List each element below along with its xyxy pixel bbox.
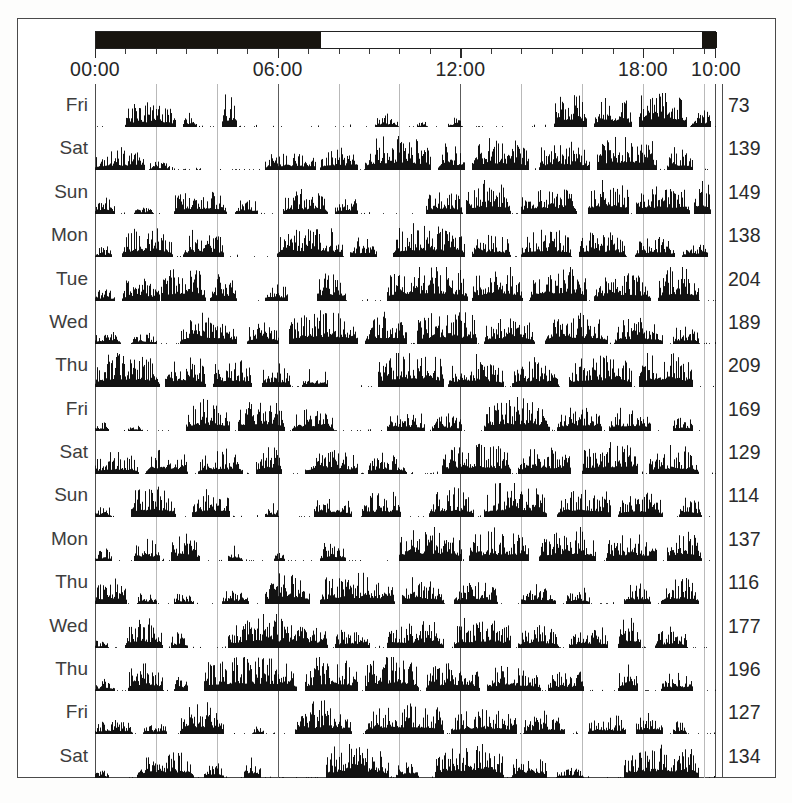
activity-trace: [95, 136, 716, 170]
time-tick-17: [613, 49, 614, 54]
activity-row: [95, 214, 716, 257]
activity-row: [95, 431, 716, 474]
activity-row: [95, 301, 716, 344]
time-tick-18: [643, 49, 644, 58]
time-tick-11: [430, 49, 431, 54]
activity-trace: [95, 93, 716, 127]
activity-row: [95, 127, 716, 170]
count-label-13: 196: [728, 658, 780, 681]
activity-trace: [95, 223, 716, 257]
day-label-14: Fri: [22, 701, 88, 723]
activity-row: [95, 388, 716, 431]
activity-row: [95, 344, 716, 387]
count-label-11: 116: [728, 571, 780, 594]
activity-trace: [95, 744, 716, 778]
actogram-figure: 00:0006:0012:0018:0010:00 FriSatSunMonTu…: [0, 0, 792, 803]
count-label-15: 134: [728, 745, 780, 768]
time-label-0000: 00:00: [70, 58, 120, 81]
count-label-7: 169: [728, 398, 780, 421]
time-label-1200: 12:00: [435, 58, 485, 81]
time-tick-3: [186, 49, 187, 54]
activity-trace: [95, 397, 716, 431]
time-axis: [95, 49, 716, 58]
activity-trace: [95, 267, 716, 301]
count-label-12: 177: [728, 615, 780, 638]
day-label-5: Wed: [22, 311, 88, 333]
activity-trace: [95, 700, 716, 734]
activity-row: [95, 518, 716, 561]
count-label-14: 127: [728, 701, 780, 724]
time-label-1800: 18:00: [618, 58, 668, 81]
activity-trace: [95, 353, 716, 387]
activity-trace: [95, 440, 716, 474]
activity-row: [95, 258, 716, 301]
time-tick-7: [308, 49, 309, 54]
day-label-13: Thu: [22, 658, 88, 680]
time-tick-15: [552, 49, 553, 54]
day-label-8: Sat: [22, 441, 88, 463]
time-tick-8: [339, 49, 340, 54]
day-label-0: Fri: [22, 94, 88, 116]
count-label-10: 137: [728, 528, 780, 551]
activity-row: [95, 171, 716, 214]
day-label-6: Thu: [22, 354, 88, 376]
day-label-4: Tue: [22, 268, 88, 290]
day-label-2: Sun: [22, 181, 88, 203]
activity-row: [95, 648, 716, 691]
day-label-1: Sat: [22, 137, 88, 159]
time-tick-20: [704, 49, 705, 54]
activity-row: [95, 561, 716, 604]
activity-trace: [95, 614, 716, 648]
time-label-1000: 10:00: [691, 58, 741, 81]
time-tick-12: [460, 49, 461, 58]
time-tick-6: [278, 49, 279, 58]
day-label-9: Sun: [22, 484, 88, 506]
count-label-0: 73: [728, 94, 780, 117]
activity-trace: [95, 180, 716, 214]
day-label-10: Mon: [22, 528, 88, 550]
day-label-7: Fri: [22, 398, 88, 420]
count-label-5: 189: [728, 311, 780, 334]
time-tick-19: [673, 49, 674, 54]
time-tick-13: [491, 49, 492, 54]
activity-trace: [95, 657, 716, 691]
time-tick-2: [156, 49, 157, 54]
activity-trace: [95, 570, 716, 604]
activity-row: [95, 691, 716, 734]
daynight-segment-night-2: [702, 32, 717, 48]
count-label-2: 149: [728, 181, 780, 204]
activity-trace: [95, 527, 716, 561]
time-tick-4: [217, 49, 218, 54]
activity-row: [95, 474, 716, 517]
time-tick-0: [95, 49, 96, 58]
day-label-3: Mon: [22, 224, 88, 246]
time-label-0600: 06:00: [253, 58, 303, 81]
day-night-bar: [95, 31, 716, 49]
count-label-1: 139: [728, 137, 780, 160]
time-tick-10: [399, 49, 400, 54]
activity-row: [95, 84, 716, 127]
time-tick-14: [521, 49, 522, 54]
time-tick-end: [715, 49, 716, 58]
daynight-segment-day-1: [321, 32, 702, 48]
activity-row: [95, 605, 716, 648]
time-tick-16: [582, 49, 583, 54]
plot-area: [95, 84, 716, 778]
day-label-11: Thu: [22, 571, 88, 593]
time-tick-5: [247, 49, 248, 54]
count-label-6: 209: [728, 354, 780, 377]
daynight-segment-night-0: [96, 32, 321, 48]
count-label-3: 138: [728, 224, 780, 247]
count-column-divider: [722, 84, 723, 778]
day-label-15: Sat: [22, 745, 88, 767]
day-label-12: Wed: [22, 615, 88, 637]
count-label-8: 129: [728, 441, 780, 464]
count-label-9: 114: [728, 484, 780, 507]
activity-trace: [95, 483, 716, 517]
time-tick-9: [369, 49, 370, 54]
activity-row: [95, 735, 716, 778]
time-tick-1: [125, 49, 126, 54]
activity-trace: [95, 310, 716, 344]
count-label-4: 204: [728, 268, 780, 291]
